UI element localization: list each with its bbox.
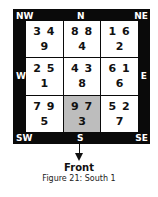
direction-e: E <box>141 71 147 81</box>
cell-top-numbers: 6 1 <box>109 61 131 76</box>
direction-w: W <box>16 71 26 81</box>
cell-bottom-number: 2 <box>116 39 124 54</box>
cell-bottom-number: 7 <box>116 114 124 129</box>
cell-bottom-number: 8 <box>78 76 86 91</box>
flying-star-grid: 3 4 9 8 8 4 1 6 2 2 5 1 4 3 8 6 1 6 7 9 … <box>26 21 138 132</box>
grid-cell-s-highlighted: 9 7 3 <box>64 96 101 132</box>
cell-bottom-number: 1 <box>41 76 49 91</box>
grid-cell-n: 8 8 4 <box>64 21 101 57</box>
grid-cell-nw: 3 4 9 <box>26 21 63 57</box>
figure-caption: Figure 21: South 1 <box>0 174 158 183</box>
cell-top-numbers: 8 8 <box>71 24 93 39</box>
grid-cell-se: 5 2 7 <box>101 96 138 132</box>
direction-se: SE <box>135 133 148 143</box>
cell-top-numbers: 1 6 <box>109 24 131 39</box>
grid-cell-sw: 7 9 5 <box>26 96 63 132</box>
cell-top-numbers: 2 5 <box>33 61 55 76</box>
cell-bottom-number: 3 <box>78 114 86 129</box>
cell-top-numbers: 9 7 <box>71 99 93 114</box>
cell-bottom-number: 4 <box>78 39 86 54</box>
grid-cell-center: 4 3 8 <box>64 58 101 94</box>
direction-nw: NW <box>16 11 33 21</box>
cell-top-numbers: 5 2 <box>109 99 131 114</box>
direction-sw: SW <box>16 133 32 143</box>
cell-top-numbers: 4 3 <box>71 61 93 76</box>
direction-ne: NE <box>134 11 148 21</box>
direction-n: N <box>77 11 85 21</box>
grid-cell-w: 2 5 1 <box>26 58 63 94</box>
direction-s: S <box>77 133 83 143</box>
cell-bottom-number: 6 <box>116 76 124 91</box>
front-label: Front <box>0 162 158 173</box>
grid-cell-e: 6 1 6 <box>101 58 138 94</box>
cell-top-numbers: 7 9 <box>33 99 55 114</box>
cell-bottom-number: 5 <box>41 114 49 129</box>
cell-top-numbers: 3 4 <box>33 24 55 39</box>
arrow-down-icon <box>75 153 83 161</box>
grid-cell-ne: 1 6 2 <box>101 21 138 57</box>
cell-bottom-number: 9 <box>41 39 49 54</box>
